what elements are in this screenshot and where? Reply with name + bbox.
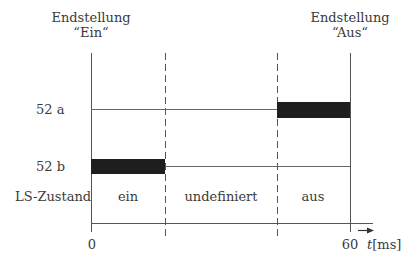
state-aus: aus — [302, 189, 325, 204]
right-endpoint-title: Endstellung “Aus“ — [310, 10, 389, 40]
arrow-right-icon — [367, 228, 374, 234]
right-title-line2: “Aus“ — [310, 25, 389, 40]
left-title-line2: “Ein“ — [51, 25, 130, 40]
right-title-line1: Endstellung — [310, 10, 389, 25]
left-endpoint-title: Endstellung “Ein“ — [51, 10, 130, 40]
row-label-52b: 52 b — [36, 159, 65, 174]
row-52a-bar — [277, 102, 350, 118]
left-title-line1: Endstellung — [51, 10, 130, 25]
axis-start-label: 0 — [88, 237, 96, 252]
axis-end-label: 60 — [342, 237, 359, 252]
row-label-ls-zustand: LS-Zustand — [15, 189, 91, 204]
state-undefiniert: undefiniert — [184, 189, 257, 204]
axis-unit: [ms] — [372, 237, 401, 252]
state-ein: ein — [118, 189, 138, 204]
axis-unit-label: t[ms] — [367, 237, 401, 252]
row-52b-bar — [91, 159, 165, 174]
row-label-52a: 52 a — [36, 102, 64, 117]
